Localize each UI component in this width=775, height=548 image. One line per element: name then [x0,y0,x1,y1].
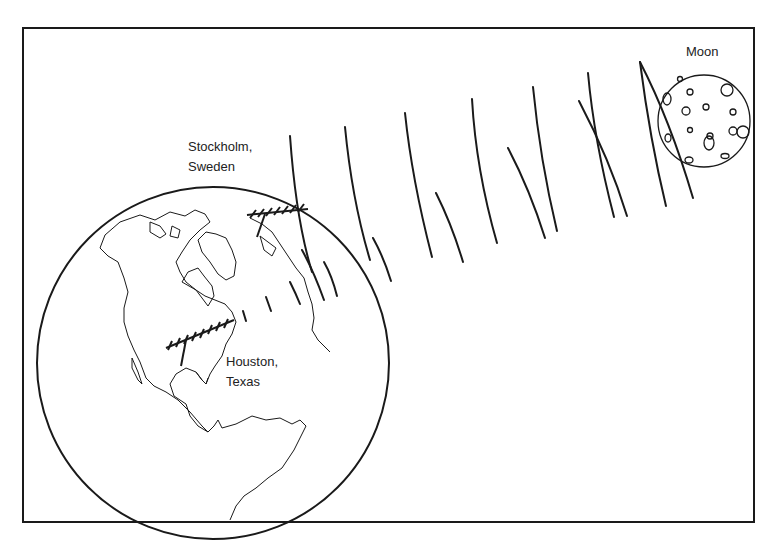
houston-label-line1: Houston, [226,352,278,372]
earth-globe [37,187,389,539]
signal-waves [243,62,693,321]
houston-antenna [166,319,234,366]
houston-label: Houston, Texas [226,352,278,392]
moon-label: Moon [686,42,719,62]
diagram-artwork [0,0,775,548]
stockholm-label: Stockholm, Sweden [188,137,252,177]
moon [658,75,750,167]
stockholm-label-line2: Sweden [188,157,252,177]
stockholm-label-line1: Stockholm, [188,137,252,157]
houston-label-line2: Texas [226,372,278,392]
